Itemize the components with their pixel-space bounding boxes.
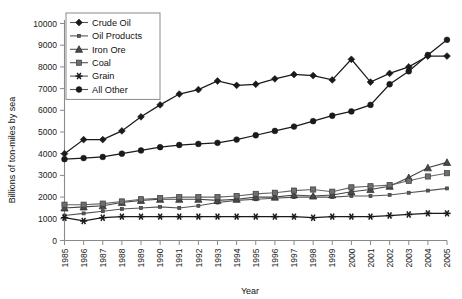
legend-label: All Other	[92, 85, 128, 95]
data-point-small-square	[78, 34, 81, 37]
y-tick-label: 0	[52, 236, 57, 246]
data-point-square	[234, 193, 239, 198]
data-point-square	[119, 199, 124, 204]
x-tick-label: 2003	[404, 248, 414, 267]
data-point-diamond	[99, 136, 106, 143]
data-point-square	[311, 187, 316, 192]
data-point-asterisk	[310, 215, 317, 221]
legend-label: Iron Ore	[92, 45, 126, 55]
data-point-square	[272, 190, 277, 195]
data-point-square	[196, 195, 201, 200]
x-tick-label: 1995	[251, 248, 261, 267]
data-point-square	[76, 60, 81, 65]
x-axis-ticks: 1985198619871988198919901991199219931994…	[60, 241, 453, 268]
x-tick-label: 1990	[155, 248, 165, 267]
data-point-asterisk	[271, 214, 278, 220]
legend-label: Crude Oil	[92, 18, 131, 28]
data-point-circle	[444, 37, 450, 43]
data-point-asterisk	[137, 214, 144, 220]
data-point-small-square	[178, 206, 181, 209]
data-point-circle	[119, 151, 125, 157]
x-tick-label: 2004	[423, 248, 433, 267]
x-tick-label: 1997	[289, 248, 299, 267]
x-tick-label: 1992	[194, 248, 204, 267]
data-point-circle	[406, 68, 412, 74]
data-point-asterisk	[118, 214, 125, 220]
chart-container: Billions of ton-miles by sea Year 010002…	[0, 0, 462, 299]
data-point-square	[444, 171, 449, 176]
y-tick-label: 5000	[38, 127, 57, 137]
data-point-square	[138, 197, 143, 202]
data-point-small-square	[388, 193, 391, 196]
data-point-diamond	[195, 86, 202, 93]
data-point-circle	[100, 154, 106, 160]
data-point-circle	[348, 108, 354, 114]
data-point-circle	[215, 140, 221, 146]
data-point-square	[330, 189, 335, 194]
data-point-asterisk	[99, 215, 106, 221]
data-point-asterisk	[176, 214, 183, 220]
data-point-diamond	[157, 101, 164, 108]
data-point-small-square	[159, 205, 162, 208]
x-tick-label: 2000	[347, 248, 357, 267]
y-axis-title-text: Billions of ton-miles by sea	[7, 97, 17, 204]
data-point-square	[62, 202, 67, 207]
y-tick-label: 7000	[38, 84, 57, 94]
data-point-diamond	[214, 78, 221, 85]
data-point-diamond	[310, 72, 317, 79]
data-point-small-square	[446, 187, 449, 190]
data-point-asterisk	[290, 214, 297, 220]
data-point-square	[158, 196, 163, 201]
data-point-circle	[329, 113, 335, 119]
data-point-diamond	[252, 81, 259, 88]
x-tick-label: 1998	[308, 248, 318, 267]
data-point-asterisk	[386, 212, 393, 218]
y-tick-label: 3000	[38, 170, 57, 180]
y-axis-ticks: 0100020003000400050006000700080009000100…	[33, 19, 64, 246]
y-tick-label: 8000	[38, 62, 57, 72]
data-point-diamond	[386, 70, 393, 77]
line-chart: Billions of ton-miles by sea Year 010002…	[0, 0, 462, 299]
data-point-square	[215, 195, 220, 200]
data-point-small-square	[120, 208, 123, 211]
data-point-circle	[291, 124, 297, 130]
data-point-asterisk	[424, 210, 431, 216]
x-tick-label: 1989	[136, 248, 146, 267]
y-axis-title: Billions of ton-miles by sea	[7, 97, 17, 204]
data-point-diamond	[291, 71, 298, 78]
data-point-diamond	[176, 91, 183, 98]
x-axis-title-text: Year	[241, 286, 259, 296]
data-point-square	[425, 174, 430, 179]
x-tick-label: 2005	[442, 248, 452, 267]
x-tick-label: 1985	[60, 248, 70, 267]
chart-legend: Crude OilOil ProductsIron OreCoalGrainAl…	[66, 13, 160, 99]
data-point-square	[100, 201, 105, 206]
data-point-asterisk	[233, 214, 240, 220]
y-tick-label: 4000	[38, 149, 57, 159]
data-point-asterisk	[157, 214, 164, 220]
data-point-square	[406, 178, 411, 183]
data-point-diamond	[271, 75, 278, 82]
x-tick-label: 1996	[270, 248, 280, 267]
y-tick-label: 10000	[33, 19, 57, 29]
data-point-circle	[195, 141, 201, 147]
data-point-small-square	[426, 189, 429, 192]
data-point-circle	[387, 81, 393, 87]
data-point-asterisk	[405, 211, 412, 217]
y-tick-label: 9000	[38, 40, 57, 50]
x-tick-label: 1987	[98, 248, 108, 267]
x-tick-label: 2002	[385, 248, 395, 267]
data-point-diamond	[233, 82, 240, 89]
legend-label: Coal	[92, 58, 111, 68]
data-point-square	[368, 184, 373, 189]
data-point-asterisk	[80, 218, 87, 224]
data-point-circle	[253, 132, 259, 138]
data-point-asterisk	[214, 214, 221, 220]
data-point-circle	[310, 118, 316, 124]
data-point-square	[253, 191, 258, 196]
data-point-asterisk	[348, 214, 355, 220]
x-tick-label: 1994	[232, 248, 242, 267]
data-point-triangle	[443, 159, 450, 166]
data-point-square	[177, 195, 182, 200]
legend-label: Grain	[92, 71, 114, 81]
